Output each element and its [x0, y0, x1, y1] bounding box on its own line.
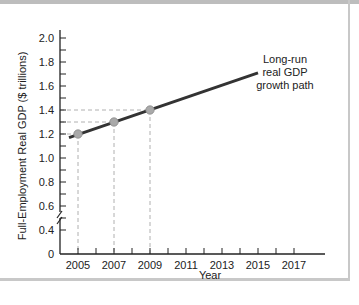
y-tick-label: 1.8 — [39, 56, 54, 68]
annotation-line: Long-run — [263, 53, 307, 65]
annotation-line: growth path — [256, 79, 313, 91]
annotation-line: real GDP — [262, 66, 307, 78]
x-tick-label: 2005 — [66, 259, 90, 271]
y-axis-label: Full-Employment Real GDP ($ trillions) — [16, 52, 28, 241]
y-tick-label: 0.6 — [39, 200, 54, 212]
x-tick-label: 2009 — [138, 259, 162, 271]
y-tick-label: 1.4 — [39, 104, 54, 116]
y-tick-label: 0 — [48, 248, 54, 260]
y-tick-label: 1.6 — [39, 80, 54, 92]
x-tick-label: 2017 — [282, 259, 306, 271]
y-tick-label: 0.4 — [39, 224, 54, 236]
guide-lines — [60, 110, 150, 254]
data-point — [146, 106, 154, 114]
data-point — [74, 130, 82, 138]
axis-break-icon — [57, 211, 62, 218]
x-tick-label: 2007 — [102, 259, 126, 271]
y-tick-label: 1.2 — [39, 128, 54, 140]
x-tick-label: 2011 — [174, 259, 198, 271]
growth-path-line — [69, 73, 258, 138]
y-tick-label: 2.0 — [39, 32, 54, 44]
y-tick-label: 0.8 — [39, 176, 54, 188]
data-point — [110, 118, 118, 126]
growth-path-annotation: Long-runreal GDPgrowth path — [256, 53, 313, 91]
x-tick-label: 2015 — [246, 259, 270, 271]
x-axis-label: Year — [199, 269, 222, 281]
y-tick-label: 1.0 — [39, 152, 54, 164]
chart: 00.40.60.81.01.21.41.61.82.0200520072009… — [0, 0, 359, 305]
